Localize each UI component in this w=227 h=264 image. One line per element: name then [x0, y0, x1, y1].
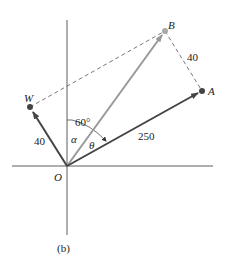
- label-ow-magnitude: 40: [34, 135, 46, 147]
- label-w: W: [24, 92, 34, 104]
- label-alpha: α: [71, 133, 77, 145]
- vector-diagram: W B A O 40 40 250 60° α θ (b): [0, 0, 227, 264]
- vector-ob: [67, 35, 162, 166]
- label-b: B: [168, 19, 175, 31]
- point-w: [27, 104, 33, 110]
- label-angle-60: 60°: [75, 116, 90, 128]
- label-origin: O: [54, 171, 62, 183]
- label-theta: θ: [89, 139, 95, 151]
- point-a: [199, 88, 205, 94]
- label-ba-length: 40: [187, 51, 199, 63]
- dashed-line-w-b: [30, 31, 165, 107]
- label-a: A: [207, 85, 215, 97]
- vector-oa: [67, 93, 198, 166]
- figure-caption: (b): [57, 242, 70, 255]
- label-oa-magnitude: 250: [138, 130, 155, 142]
